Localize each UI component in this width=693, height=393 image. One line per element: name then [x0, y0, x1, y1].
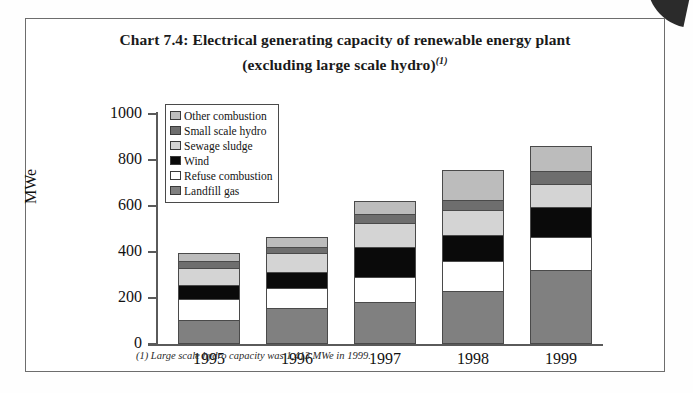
- stacked-bar[interactable]: [178, 253, 240, 344]
- page-canvas: Chart 7.4: Electrical generating capacit…: [0, 0, 693, 393]
- legend-label: Landfill gas: [184, 185, 239, 197]
- y-axis-tick-label: 600: [82, 197, 142, 213]
- legend-swatch-icon: [170, 141, 181, 150]
- legend-swatch-icon: [170, 156, 181, 165]
- bar-segment-sewage-sludge[interactable]: [443, 211, 503, 236]
- bar-segment-wind[interactable]: [355, 248, 415, 279]
- stacked-bar[interactable]: [354, 201, 416, 344]
- bar-group[interactable]: [354, 19, 416, 344]
- y-axis-tick: [148, 205, 156, 206]
- chart-footnote: (1) Large scale hydro capacity was 1,413…: [136, 350, 371, 361]
- bar-segment-other-combustion[interactable]: [531, 147, 591, 172]
- legend-item-landfill-gas[interactable]: Landfill gas: [170, 183, 272, 198]
- bar-segment-refuse-combustion[interactable]: [443, 262, 503, 292]
- legend-label: Sewage sludge: [184, 140, 253, 152]
- y-axis-title: MWe: [22, 169, 40, 204]
- legend-swatch-icon: [170, 126, 181, 135]
- bar-segment-wind[interactable]: [531, 208, 591, 239]
- bar-segment-landfill-gas[interactable]: [443, 292, 503, 343]
- bar-segment-other-combustion[interactable]: [443, 171, 503, 201]
- bar-segment-sewage-sludge[interactable]: [179, 269, 239, 286]
- y-axis-tick-label: 1000: [82, 105, 142, 121]
- bar-segment-refuse-combustion[interactable]: [267, 289, 327, 309]
- bar-segment-small-scale-hydro[interactable]: [443, 201, 503, 211]
- bar-segment-small-scale-hydro[interactable]: [355, 215, 415, 224]
- bar-segment-sewage-sludge[interactable]: [267, 254, 327, 273]
- bar-segment-refuse-combustion[interactable]: [179, 300, 239, 320]
- legend-item-small-scale-hydro[interactable]: Small scale hydro: [170, 123, 272, 138]
- bar-segment-landfill-gas[interactable]: [267, 309, 327, 343]
- y-axis-tick-label: 800: [82, 151, 142, 167]
- legend-label: Small scale hydro: [184, 125, 266, 137]
- y-axis-tick: [148, 159, 156, 160]
- legend-item-sewage-sludge[interactable]: Sewage sludge: [170, 138, 272, 153]
- bar-group[interactable]: [442, 19, 504, 344]
- legend-label: Wind: [184, 155, 209, 167]
- legend-label: Other combustion: [184, 110, 267, 122]
- bar-segment-wind[interactable]: [267, 273, 327, 289]
- y-axis-tick-label: 0: [82, 335, 142, 351]
- legend-swatch-icon: [170, 171, 181, 180]
- x-axis-label-1999: 1999: [530, 350, 592, 368]
- legend-item-refuse-combustion[interactable]: Refuse combustion: [170, 168, 272, 183]
- bar-segment-wind[interactable]: [443, 236, 503, 262]
- y-axis-tick: [148, 343, 156, 344]
- x-axis-label-1998: 1998: [442, 350, 504, 368]
- legend-item-wind[interactable]: Wind: [170, 153, 272, 168]
- bar-segment-other-combustion[interactable]: [179, 254, 239, 262]
- y-axis-tick: [148, 251, 156, 252]
- bar-segment-sewage-sludge[interactable]: [355, 224, 415, 248]
- y-axis-tick-label: 200: [82, 289, 142, 305]
- y-axis-tick-label: 400: [82, 243, 142, 259]
- legend-label: Refuse combustion: [184, 170, 272, 182]
- stacked-bar[interactable]: [266, 237, 328, 344]
- legend-item-other-combustion[interactable]: Other combustion: [170, 108, 272, 123]
- legend-swatch-icon: [170, 111, 181, 120]
- y-axis-line: [156, 112, 158, 346]
- y-axis-tick: [148, 113, 156, 114]
- legend-swatch-icon: [170, 186, 181, 195]
- stacked-bar[interactable]: [530, 146, 592, 344]
- chart-legend: Other combustionSmall scale hydroSewage …: [165, 104, 279, 203]
- bar-segment-other-combustion[interactable]: [267, 238, 327, 248]
- bar-segment-sewage-sludge[interactable]: [531, 185, 591, 208]
- bar-segment-small-scale-hydro[interactable]: [531, 172, 591, 185]
- bar-segment-refuse-combustion[interactable]: [531, 238, 591, 271]
- chart-frame: Chart 7.4: Electrical generating capacit…: [25, 18, 665, 372]
- x-axis-line: [148, 344, 603, 346]
- bar-segment-landfill-gas[interactable]: [355, 303, 415, 343]
- bar-segment-landfill-gas[interactable]: [179, 321, 239, 343]
- y-axis-tick: [148, 297, 156, 298]
- bar-segment-other-combustion[interactable]: [355, 202, 415, 214]
- bar-segment-wind[interactable]: [179, 286, 239, 301]
- stacked-bar[interactable]: [442, 170, 504, 344]
- bar-segment-small-scale-hydro[interactable]: [179, 262, 239, 269]
- bar-segment-landfill-gas[interactable]: [531, 271, 591, 343]
- bar-segment-refuse-combustion[interactable]: [355, 278, 415, 303]
- bar-group[interactable]: [530, 19, 592, 344]
